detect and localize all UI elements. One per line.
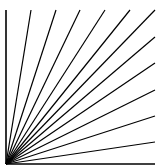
- ray-line-10: [6, 116, 155, 164]
- ray-line-4: [6, 10, 105, 164]
- ray-line-6: [6, 10, 155, 164]
- ray-line-5: [6, 10, 130, 164]
- radial-line-fan-diagram: [0, 0, 159, 168]
- ray-line-1: [6, 10, 31, 164]
- ray-group: [6, 10, 155, 164]
- ray-line-8: [6, 63, 155, 164]
- ray-line-2: [6, 10, 56, 164]
- ray-line-3: [6, 10, 80, 164]
